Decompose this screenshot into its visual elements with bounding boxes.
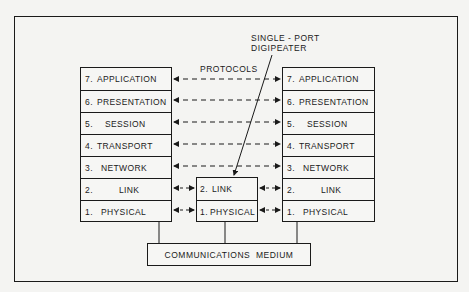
short-arrows <box>174 188 280 210</box>
protocol-arrows <box>174 79 280 166</box>
digipeater-pointer <box>234 55 272 175</box>
connector-lines <box>0 0 469 292</box>
